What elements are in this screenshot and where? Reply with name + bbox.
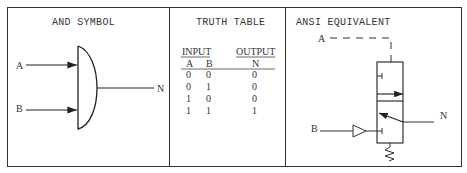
ansi-valve-icon: [0, 0, 467, 173]
